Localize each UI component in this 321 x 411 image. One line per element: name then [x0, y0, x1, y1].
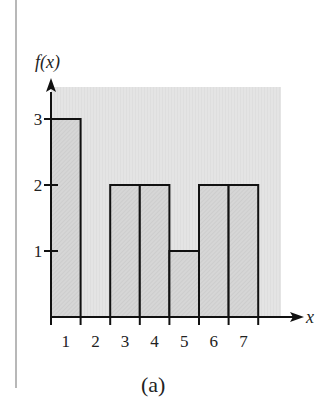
- x-tick-label: 3: [121, 332, 130, 351]
- x-tick-label: 6: [210, 332, 219, 351]
- x-tick-label: 4: [150, 332, 159, 351]
- y-tick-label: 1: [34, 242, 43, 261]
- x-tick-label: 2: [91, 332, 100, 351]
- x-tick-label: 5: [180, 332, 189, 351]
- x-tick-label: 1: [62, 332, 71, 351]
- y-tick-label: 3: [34, 110, 43, 129]
- bar-3: [110, 185, 140, 317]
- bar-6: [199, 185, 229, 317]
- bar-4: [140, 185, 170, 317]
- x-axis-label: x: [305, 307, 314, 327]
- y-axis-label: f(x): [35, 52, 60, 73]
- x-tick-label: 7: [239, 332, 248, 351]
- bar-5: [169, 251, 199, 317]
- y-tick-label: 2: [34, 176, 43, 195]
- caption-text: (a): [141, 372, 165, 398]
- bar-1: [51, 119, 81, 317]
- bar-7: [229, 185, 259, 317]
- histogram-chart: 1231234567xf(x): [0, 0, 321, 411]
